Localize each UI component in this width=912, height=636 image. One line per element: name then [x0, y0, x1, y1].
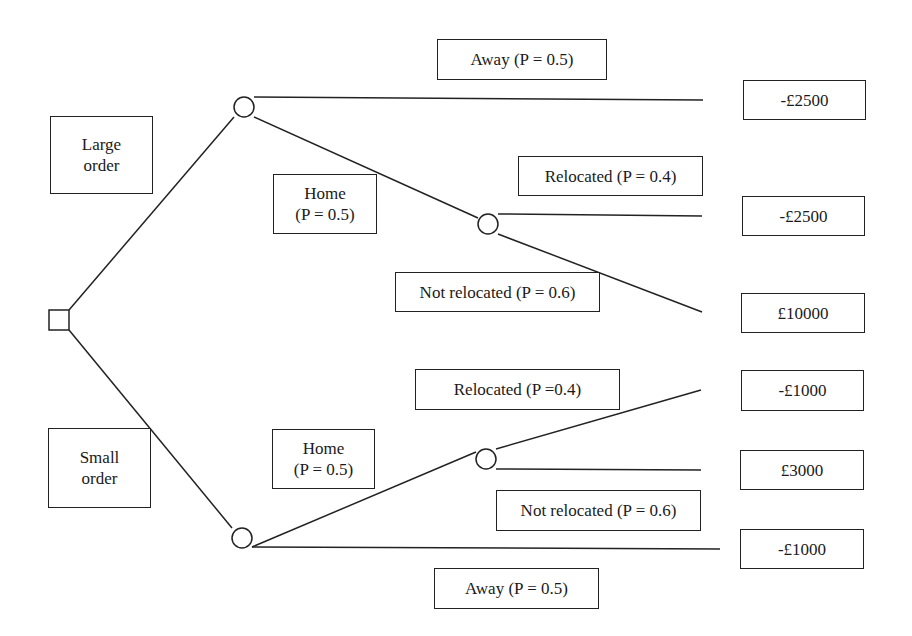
small-home-line2: (P = 0.5)	[294, 459, 353, 480]
decision-node-square	[49, 310, 69, 330]
small-order-label: Small order	[48, 428, 151, 508]
small-home-line1: Home	[303, 438, 345, 459]
chance-node-large	[234, 97, 254, 117]
large-not-relocated-label: Not relocated (P = 0.6)	[395, 272, 600, 312]
payoff-5: £3000	[740, 450, 864, 490]
small-not-relocated-label: Not relocated (P = 0.6)	[496, 490, 701, 531]
small-order-line2: order	[82, 468, 118, 489]
small-away-label: Away (P = 0.5)	[434, 568, 599, 609]
chance-node-small-home	[476, 449, 496, 469]
branch-small-not-relocated	[496, 469, 701, 470]
large-away-label: Away (P = 0.5)	[437, 39, 607, 80]
branch-small-away	[252, 547, 720, 549]
chance-node-large-home	[478, 214, 498, 234]
large-order-line2: order	[84, 155, 120, 176]
small-home-label: Home (P = 0.5)	[272, 429, 375, 489]
small-relocated-label: Relocated (P =0.4)	[415, 369, 620, 410]
small-order-line1: Small	[80, 447, 120, 468]
large-order-line1: Large	[82, 134, 121, 155]
payoff-6: -£1000	[740, 529, 864, 569]
payoff-1: -£2500	[743, 80, 866, 120]
branch-large-relocated	[498, 214, 702, 216]
large-home-label: Home (P = 0.5)	[273, 174, 377, 234]
chance-node-small	[232, 528, 252, 548]
large-order-label: Large order	[50, 116, 153, 194]
large-relocated-label: Relocated (P = 0.4)	[518, 156, 703, 196]
payoff-2: -£2500	[742, 196, 865, 236]
payoff-3: £10000	[741, 293, 865, 333]
branch-large-away	[254, 97, 703, 100]
payoff-4: -£1000	[741, 370, 864, 411]
large-home-line1: Home	[304, 183, 346, 204]
large-home-line2: (P = 0.5)	[295, 204, 354, 225]
